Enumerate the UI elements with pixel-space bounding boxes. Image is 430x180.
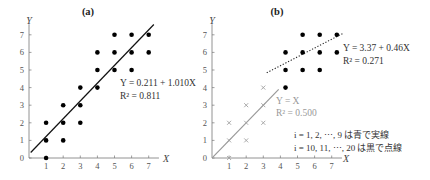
x-tick-label: 5 bbox=[112, 161, 116, 171]
panel-a-x-label: X bbox=[162, 153, 170, 164]
panel-a-r2: R² = 0.811 bbox=[120, 91, 161, 101]
panel-b-equation-black: Y = 3.37 + 0.46X bbox=[343, 43, 410, 53]
data-point bbox=[283, 68, 288, 73]
x-tick-label: 3 bbox=[261, 161, 265, 171]
data-point-cross bbox=[261, 121, 265, 125]
data-point bbox=[44, 138, 49, 143]
data-point bbox=[300, 33, 305, 38]
x-tick-label: 4 bbox=[95, 161, 100, 171]
data-point bbox=[112, 33, 117, 38]
y-tick-label: 0 bbox=[20, 153, 24, 163]
data-point bbox=[61, 138, 66, 143]
panel-b-r2-black: R² = 0.271 bbox=[343, 56, 384, 66]
data-point-cross bbox=[244, 103, 248, 107]
y-tick-label: 1 bbox=[20, 135, 24, 145]
panel-b-note-2: i = 10, 11, ⋯, 20 は黒で点線 bbox=[294, 142, 403, 153]
y-tick-label: 4 bbox=[203, 83, 208, 93]
data-point bbox=[78, 85, 83, 90]
data-point bbox=[129, 68, 134, 73]
data-point bbox=[317, 33, 322, 38]
x-tick-label: 6 bbox=[129, 161, 133, 171]
y-tick-label: 1 bbox=[203, 135, 207, 145]
data-point bbox=[95, 68, 100, 73]
x-tick-label: 7 bbox=[147, 161, 151, 171]
panel-b-y-label: Y bbox=[209, 15, 216, 26]
panel-b-title: (b) bbox=[271, 6, 284, 18]
x-tick-label: 2 bbox=[244, 161, 248, 171]
data-point bbox=[95, 50, 100, 55]
data-point bbox=[317, 68, 322, 73]
data-point-cross bbox=[244, 121, 248, 125]
panel-a-equation: Y = 0.211 + 1.010X bbox=[120, 78, 196, 88]
data-point bbox=[78, 121, 83, 126]
data-point bbox=[61, 103, 66, 108]
x-tick-label: 2 bbox=[61, 161, 65, 171]
data-point bbox=[95, 85, 100, 90]
x-tick-label: 3 bbox=[78, 161, 82, 171]
data-point bbox=[317, 50, 322, 55]
data-point bbox=[44, 121, 49, 126]
x-tick-label: 1 bbox=[44, 161, 48, 171]
data-point bbox=[335, 33, 340, 38]
y-tick-label: 7 bbox=[203, 30, 207, 40]
y-tick-label: 7 bbox=[20, 30, 24, 40]
data-point-cross bbox=[261, 103, 265, 107]
regression-line-dotted bbox=[267, 33, 344, 73]
data-point bbox=[146, 50, 151, 55]
panel-b-note-1: i = 1, 2, ⋯, 9 は青で実線 bbox=[294, 129, 389, 140]
data-point bbox=[112, 68, 117, 73]
data-point bbox=[61, 121, 66, 126]
data-point bbox=[283, 85, 288, 90]
x-tick-label: 5 bbox=[295, 161, 299, 171]
data-point bbox=[300, 68, 305, 73]
y-tick-label: 2 bbox=[20, 118, 24, 128]
data-point-cross bbox=[261, 86, 265, 90]
data-point bbox=[44, 156, 49, 161]
panel-a-title: (a) bbox=[82, 6, 95, 18]
regression-line bbox=[31, 25, 154, 153]
x-tick-label: 1 bbox=[227, 161, 231, 171]
y-tick-label: 0 bbox=[203, 153, 207, 163]
data-point bbox=[300, 50, 305, 55]
data-point bbox=[112, 50, 117, 55]
data-point-cross bbox=[244, 138, 248, 142]
panel-b-r2-gray: R² = 0.500 bbox=[276, 108, 317, 118]
figure: 123456701234567 123456701234567 (a) Y X … bbox=[0, 0, 430, 180]
y-tick-label: 6 bbox=[20, 47, 24, 57]
y-tick-label: 2 bbox=[203, 118, 207, 128]
y-tick-label: 3 bbox=[203, 100, 207, 110]
panel-b-equation-gray: Y = X bbox=[276, 96, 300, 106]
data-point bbox=[78, 103, 83, 108]
x-tick-label: 4 bbox=[278, 161, 283, 171]
panel-a-y-label: Y bbox=[26, 15, 33, 26]
data-point-cross bbox=[227, 138, 231, 142]
data-point-cross bbox=[227, 121, 231, 125]
panel-b-x-label: X bbox=[342, 153, 350, 164]
y-tick-label: 3 bbox=[20, 100, 24, 110]
y-tick-label: 5 bbox=[20, 65, 24, 75]
data-point bbox=[335, 50, 340, 55]
data-point bbox=[129, 33, 134, 38]
x-tick-label: 6 bbox=[312, 161, 316, 171]
data-point bbox=[283, 50, 288, 55]
y-tick-label: 4 bbox=[20, 83, 25, 93]
x-tick-label: 7 bbox=[330, 161, 334, 171]
y-tick-label: 6 bbox=[203, 47, 207, 57]
data-point bbox=[129, 50, 134, 55]
data-point bbox=[146, 33, 151, 38]
y-tick-label: 5 bbox=[203, 65, 207, 75]
